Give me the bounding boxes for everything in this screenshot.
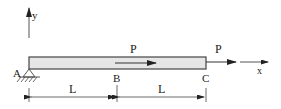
- x-axis-label: x: [257, 65, 262, 76]
- point-A-label: A: [13, 67, 21, 79]
- dimension-lines: [29, 85, 206, 102]
- y-axis: y: [29, 8, 38, 38]
- point-B-label: B: [113, 72, 120, 84]
- end-load: P: [206, 42, 236, 62]
- x-axis: x: [240, 62, 268, 76]
- dimension-BC-label: L: [158, 82, 165, 96]
- support-triangle-icon: [23, 69, 35, 77]
- y-axis-label: y: [32, 9, 38, 21]
- beam-diagram: y P P x A B C L L: [0, 0, 281, 109]
- point-C-label: C: [202, 72, 209, 84]
- dimension-AB-label: L: [69, 82, 76, 96]
- end-force-label: P: [215, 42, 222, 56]
- internal-force-label: P: [130, 42, 137, 56]
